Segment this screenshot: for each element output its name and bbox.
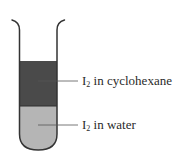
label-iodine-in-water: I2 in water [82, 118, 136, 133]
label-text: in water [90, 117, 135, 132]
cyclohexane-layer [20, 61, 58, 106]
label-iodine-in-cyclohexane: I2 in cyclohexane [82, 74, 172, 89]
label-text: in cyclohexane [90, 73, 172, 88]
water-layer [20, 106, 58, 150]
